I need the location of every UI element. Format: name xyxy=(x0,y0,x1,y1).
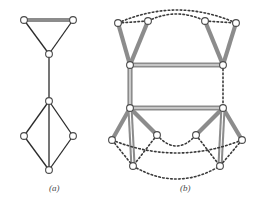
panel-a-graph xyxy=(21,17,77,174)
panel-a-node xyxy=(21,133,28,140)
figure-container: (a) (b) xyxy=(0,0,257,216)
panel-b-edge xyxy=(118,23,130,65)
panel-b-edge xyxy=(148,14,205,21)
panel-b-node xyxy=(220,62,227,69)
panel-a-edge xyxy=(49,136,73,170)
panel-b-node xyxy=(202,18,209,25)
panel-b-edge xyxy=(157,135,196,146)
panel-a-edge xyxy=(49,20,73,54)
panel-a-node xyxy=(70,133,77,140)
panel-a-node xyxy=(70,17,77,24)
panel-a-edge xyxy=(24,136,49,170)
panel-a-node xyxy=(46,51,53,58)
panel-b-edge xyxy=(133,166,220,179)
panel-b-edge xyxy=(112,108,130,140)
panel-b-node xyxy=(115,20,122,27)
panel-b-node xyxy=(145,18,152,25)
panel-a-edge xyxy=(49,101,73,136)
panel-b-edge xyxy=(130,108,157,135)
panel-a-node xyxy=(46,98,53,105)
panel-b-node xyxy=(127,105,134,112)
caption-a: (a) xyxy=(49,183,60,193)
panel-b-node xyxy=(239,137,246,144)
panel-b-edge xyxy=(133,135,157,166)
panel-b-node xyxy=(193,132,200,139)
panel-a-node xyxy=(21,17,28,24)
panel-b-graph xyxy=(109,10,246,179)
panel-b-node xyxy=(220,105,227,112)
panel-b-edge xyxy=(223,23,236,65)
graph-figure xyxy=(0,0,257,216)
panel-a-node xyxy=(46,167,53,174)
panel-b-node xyxy=(154,132,161,139)
panel-b-node xyxy=(130,163,137,170)
panel-a-edge xyxy=(24,20,49,54)
panel-b-node xyxy=(127,62,134,69)
panel-b-edge xyxy=(223,108,242,140)
panel-b-edge xyxy=(205,21,223,65)
panel-b-node xyxy=(217,163,224,170)
panel-b-node xyxy=(109,137,116,144)
panel-b-edge xyxy=(196,108,223,135)
panel-a-edge xyxy=(24,101,49,136)
panel-b-node xyxy=(233,20,240,27)
caption-b: (b) xyxy=(180,183,191,193)
panel-b-edge xyxy=(130,21,148,65)
